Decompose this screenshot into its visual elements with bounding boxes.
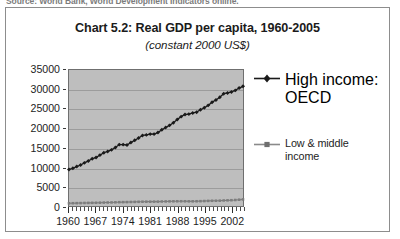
y-axis: 35000300002500020000150001000050000	[14, 69, 64, 207]
chart-subtitle: (constant 2000 US$)	[6, 38, 389, 51]
x-tick-mark	[189, 207, 190, 211]
plot-area	[68, 69, 244, 207]
x-tick-mark	[111, 207, 112, 211]
x-tick-mark	[158, 207, 159, 211]
x-tick-mark	[115, 207, 116, 211]
y-tick-label: 5000	[36, 182, 60, 193]
x-tick-mark	[107, 207, 108, 211]
x-tick-label: 1995	[193, 215, 217, 227]
x-tick-mark	[84, 207, 85, 211]
x-tick-label: 2002	[220, 215, 244, 227]
y-tick-mark	[63, 148, 66, 149]
x-tick-mark	[131, 207, 132, 211]
data-series-layer	[69, 70, 243, 206]
x-tick-mark	[80, 207, 81, 211]
y-tick-mark	[63, 69, 66, 70]
x-tick-mark	[134, 207, 135, 211]
x-tick-mark	[232, 207, 233, 213]
x-tick-mark	[213, 207, 214, 211]
y-tick-label: 15000	[31, 143, 60, 154]
x-tick-mark	[119, 207, 120, 211]
x-tick-mark	[209, 207, 210, 211]
y-tick-mark	[63, 89, 66, 90]
x-tick-mark	[138, 207, 139, 211]
x-tick-mark	[236, 207, 237, 211]
x-tick-mark	[103, 207, 104, 211]
source-caption: Source: World Bank, World Development In…	[6, 0, 239, 6]
x-tick-mark	[146, 207, 147, 211]
x-tick-mark	[228, 207, 229, 211]
x-axis-ticks	[68, 207, 244, 213]
x-tick-mark	[91, 207, 92, 211]
x-tick-mark	[162, 207, 163, 211]
x-axis: 1960196719741981198819952002	[6, 215, 306, 231]
x-tick-mark	[181, 207, 182, 211]
legend-label: Low & middle income	[285, 137, 349, 162]
x-tick-mark	[170, 207, 171, 211]
legend-entry: Low & middle income	[254, 137, 390, 162]
y-tick-mark	[63, 108, 66, 109]
legend-entry: High income: OECD	[254, 71, 390, 107]
x-tick-mark	[95, 207, 96, 213]
x-tick-mark	[72, 207, 73, 211]
x-tick-mark	[123, 207, 124, 213]
chart-figure: Source: World Bank, World Development In…	[0, 0, 400, 239]
x-tick-mark	[99, 207, 100, 211]
x-tick-mark	[217, 207, 218, 211]
x-tick-mark	[197, 207, 198, 211]
x-tick-mark	[127, 207, 128, 211]
y-tick-label: 25000	[31, 103, 60, 114]
x-tick-mark	[68, 207, 69, 213]
y-tick-mark	[63, 128, 66, 129]
legend-marker-diamond-icon	[254, 72, 280, 85]
x-tick-label: 1960	[56, 215, 80, 227]
x-tick-mark	[221, 207, 222, 211]
y-tick-mark	[63, 207, 66, 208]
y-tick-label: 10000	[31, 162, 60, 173]
x-tick-mark	[88, 207, 89, 211]
x-tick-mark	[174, 207, 175, 211]
legend-label: High income: OECD	[285, 71, 390, 107]
y-tick-label: 35000	[31, 64, 60, 75]
y-tick-label: 20000	[31, 123, 60, 134]
x-tick-mark	[166, 207, 167, 211]
x-tick-label: 1981	[138, 215, 162, 227]
x-tick-mark	[240, 207, 241, 211]
y-tick-mark	[63, 187, 66, 188]
x-tick-mark	[150, 207, 151, 213]
figure-frame: Chart 5.2: Real GDP per capita, 1960-200…	[5, 7, 390, 232]
x-tick-label: 1967	[84, 215, 108, 227]
x-tick-label: 1988	[166, 215, 190, 227]
series-low-middle-income	[68, 198, 245, 204]
y-tick-label: 30000	[31, 83, 60, 94]
x-tick-label: 1974	[111, 215, 135, 227]
chart-legend: High income: OECD Low & middle income	[254, 71, 390, 192]
x-tick-mark	[205, 207, 206, 213]
x-tick-mark	[178, 207, 179, 213]
series-high-income-oecd	[67, 84, 245, 171]
x-tick-mark	[185, 207, 186, 211]
x-tick-mark	[244, 207, 245, 211]
x-tick-mark	[224, 207, 225, 211]
legend-marker-square-icon	[254, 138, 280, 151]
y-tick-label: 0	[54, 202, 60, 213]
chart-title: Chart 5.2: Real GDP per capita, 1960-200…	[6, 21, 389, 35]
x-tick-mark	[154, 207, 155, 211]
y-tick-mark	[63, 168, 66, 169]
x-tick-mark	[142, 207, 143, 211]
x-tick-mark	[76, 207, 77, 211]
x-tick-mark	[193, 207, 194, 211]
x-tick-mark	[201, 207, 202, 211]
